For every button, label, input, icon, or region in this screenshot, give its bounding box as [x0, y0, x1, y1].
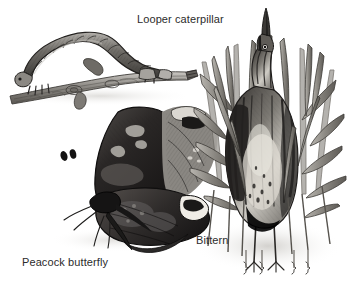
peacock-butterfly-figure [50, 105, 218, 253]
camouflage-artwork [0, 0, 356, 285]
caption-bittern: Bittern [196, 234, 229, 246]
caption-peacock-butterfly: Peacock butterfly [22, 256, 108, 268]
looper-caterpillar-figure [8, 32, 198, 109]
caption-looper-caterpillar: Looper caterpillar [137, 13, 224, 25]
illustration-plate: Looper caterpillar Peacock butterfly Bit… [0, 0, 356, 285]
